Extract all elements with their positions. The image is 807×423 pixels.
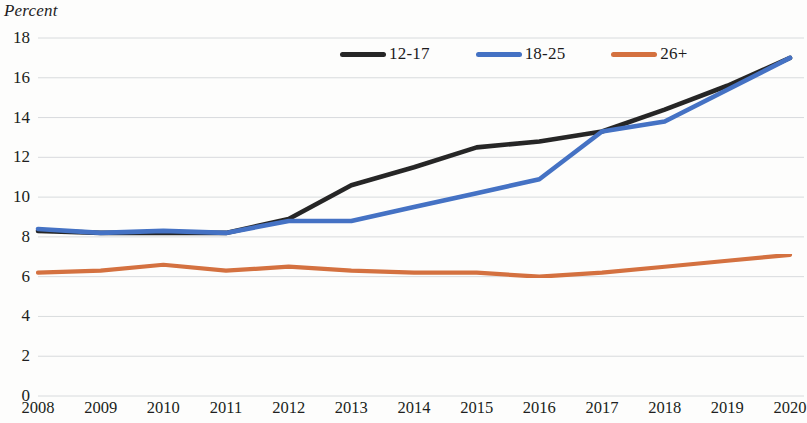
- legend-swatch-icon-18-25: [476, 52, 522, 57]
- x-tick-2014: 2014: [398, 398, 431, 418]
- chart-legend: 12-1718-2526+: [340, 44, 688, 64]
- x-tick-2019: 2019: [711, 398, 744, 418]
- series-line-26plus: [38, 255, 790, 277]
- legend-swatch-icon-26plus: [611, 52, 657, 57]
- y-tick-10: 10: [2, 187, 30, 207]
- line-chart: Percent 024681012141618 2008200920102011…: [0, 0, 807, 423]
- y-tick-18: 18: [2, 28, 30, 48]
- y-tick-16: 16: [2, 68, 30, 88]
- x-tick-2010: 2010: [147, 398, 180, 418]
- x-tick-2018: 2018: [648, 398, 681, 418]
- legend-label: 26+: [660, 44, 687, 64]
- y-tick-8: 8: [2, 227, 30, 247]
- legend-entry-26plus[interactable]: 26+: [611, 44, 687, 64]
- x-tick-2009: 2009: [84, 398, 117, 418]
- legend-label: 18-25: [525, 44, 566, 64]
- x-tick-2008: 2008: [22, 398, 55, 418]
- series-line-18-25: [38, 58, 790, 233]
- y-tick-6: 6: [2, 267, 30, 287]
- legend-entry-12-17[interactable]: 12-17: [340, 44, 430, 64]
- x-tick-2020: 2020: [774, 398, 807, 418]
- gridlines: [38, 38, 804, 396]
- y-tick-14: 14: [2, 108, 30, 128]
- x-tick-2012: 2012: [272, 398, 305, 418]
- legend-entry-18-25[interactable]: 18-25: [476, 44, 566, 64]
- legend-swatch-icon-12-17: [340, 52, 386, 57]
- x-tick-2015: 2015: [460, 398, 493, 418]
- x-tick-2011: 2011: [210, 398, 242, 418]
- y-tick-12: 12: [2, 147, 30, 167]
- y-tick-4: 4: [2, 306, 30, 326]
- x-tick-2013: 2013: [335, 398, 368, 418]
- legend-label: 12-17: [389, 44, 430, 64]
- series-lines: [38, 58, 790, 277]
- x-tick-2017: 2017: [586, 398, 619, 418]
- x-tick-2016: 2016: [523, 398, 556, 418]
- y-tick-2: 2: [2, 346, 30, 366]
